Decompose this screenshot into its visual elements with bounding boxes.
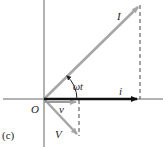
phasor-diagram-svg: I i ωt O v V (c) <box>0 0 163 147</box>
panel-label: (c) <box>2 129 15 142</box>
label-I: I <box>116 10 122 22</box>
phasor-I-arrow <box>44 7 138 99</box>
label-V: V <box>55 128 63 140</box>
phasor-diagram: I i ωt O v V (c) <box>0 0 163 147</box>
label-v: v <box>59 103 64 115</box>
label-angle-omega-t: ωt <box>73 81 83 92</box>
label-i: i <box>119 85 122 97</box>
label-origin-O: O <box>31 103 39 115</box>
